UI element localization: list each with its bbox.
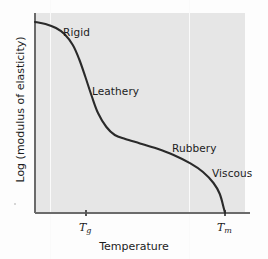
scan-artifact-speck <box>14 203 16 205</box>
x-tick-label-tm: Tm <box>217 221 232 235</box>
x-axis-title: Temperature <box>0 240 268 253</box>
x-tick-label-tg: Tg <box>79 221 91 235</box>
region-label-viscous: Viscous <box>212 167 252 179</box>
region-label-rigid: Rigid <box>63 26 90 38</box>
x-axis-tick-tg <box>85 210 87 216</box>
tick-sub-tg: g <box>86 226 91 235</box>
polymer-modulus-temperature-chart: Rigid Leathery Rubbery Viscous Tg Tm Tem… <box>0 0 268 259</box>
tick-sub-tm: m <box>224 226 232 235</box>
y-axis-title: Log (modulus of elasticity) <box>14 10 27 210</box>
y-axis-line <box>34 13 36 213</box>
gridline-tm <box>189 0 190 259</box>
region-label-rubbery: Rubbery <box>172 142 217 154</box>
x-axis-line <box>35 212 250 214</box>
x-axis-tick-tm <box>224 210 226 216</box>
region-label-leathery: Leathery <box>92 85 139 97</box>
plot-area <box>35 13 245 213</box>
gridline-tg <box>50 0 51 259</box>
